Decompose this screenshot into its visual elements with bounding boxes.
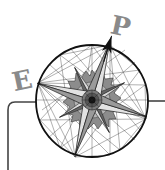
left-connector-line bbox=[8, 102, 37, 170]
compass-logo: E P bbox=[0, 0, 165, 170]
compass-hub bbox=[82, 90, 102, 110]
letter-e: E bbox=[9, 64, 35, 97]
letter-p: P bbox=[108, 9, 133, 42]
